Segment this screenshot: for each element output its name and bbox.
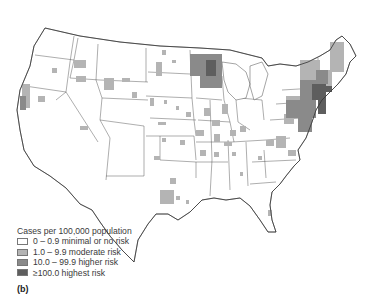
legend-item-higher: 10.0 – 99.9 higher risk (17, 257, 132, 267)
legend-label: 0 – 0.9 minimal or no risk (33, 236, 129, 246)
legend-swatch (17, 259, 28, 266)
map-legend: Cases per 100,000 population 0 – 0.9 min… (17, 226, 132, 278)
legend-item-moderate: 1.0 – 9.9 moderate risk (17, 247, 132, 257)
legend-swatch (17, 269, 28, 276)
legend-item-highest: ≥100.0 highest risk (17, 268, 132, 278)
legend-label: ≥100.0 highest risk (33, 268, 105, 278)
legend-swatch (17, 249, 28, 256)
legend-label: 1.0 – 9.9 moderate risk (33, 247, 121, 257)
legend-label: 10.0 – 99.9 higher risk (33, 257, 118, 267)
legend-title: Cases per 100,000 population (17, 226, 132, 236)
legend-swatch (17, 238, 28, 245)
legend-item-minimal: 0 – 0.9 minimal or no risk (17, 236, 132, 246)
panel-label: (b) (17, 284, 29, 294)
